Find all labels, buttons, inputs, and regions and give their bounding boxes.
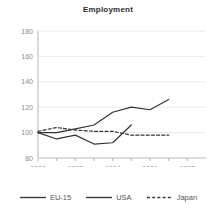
svg-text:1992: 1992 xyxy=(68,165,84,167)
legend-swatch-eu-15-icon xyxy=(19,194,47,201)
chart-legend: EU-15USAJapan xyxy=(0,186,216,208)
legend-item-eu-15[interactable]: EU-15 xyxy=(19,193,71,202)
legend-label: USA xyxy=(116,193,131,202)
svg-text:120: 120 xyxy=(21,104,33,111)
employment-line-chart: Employment 80100120140160180 19901992199… xyxy=(0,0,216,212)
legend-label: EU-15 xyxy=(50,193,71,202)
legend-swatch-japan-icon xyxy=(146,194,174,201)
series-line-japan xyxy=(38,128,169,136)
data-series-group xyxy=(38,100,169,144)
svg-text:180: 180 xyxy=(21,28,33,35)
series-line-eu-15 xyxy=(38,100,169,133)
svg-text:160: 160 xyxy=(21,53,33,60)
y-axis-tick-labels: 80100120140160180 xyxy=(21,28,33,162)
svg-text:1998: 1998 xyxy=(180,165,196,167)
svg-text:80: 80 xyxy=(25,155,33,162)
legend-item-usa[interactable]: USA xyxy=(85,193,131,202)
svg-text:140: 140 xyxy=(21,78,33,85)
svg-text:1990: 1990 xyxy=(30,165,46,167)
chart-title: Employment xyxy=(0,5,216,14)
legend-item-japan[interactable]: Japan xyxy=(146,193,197,202)
x-axis-tick-labels: 19901992199419961998 xyxy=(30,165,195,167)
plot-area: 80100120140160180 19901992199419961998 xyxy=(0,22,216,167)
svg-text:1996: 1996 xyxy=(142,165,158,167)
legend-label: Japan xyxy=(177,193,197,202)
svg-text:100: 100 xyxy=(21,129,33,136)
legend-swatch-usa-icon xyxy=(85,194,113,201)
plot-svg: 80100120140160180 19901992199419961998 xyxy=(0,22,216,167)
gridlines xyxy=(38,31,206,133)
svg-text:1994: 1994 xyxy=(105,165,121,167)
series-line-usa xyxy=(38,125,131,144)
